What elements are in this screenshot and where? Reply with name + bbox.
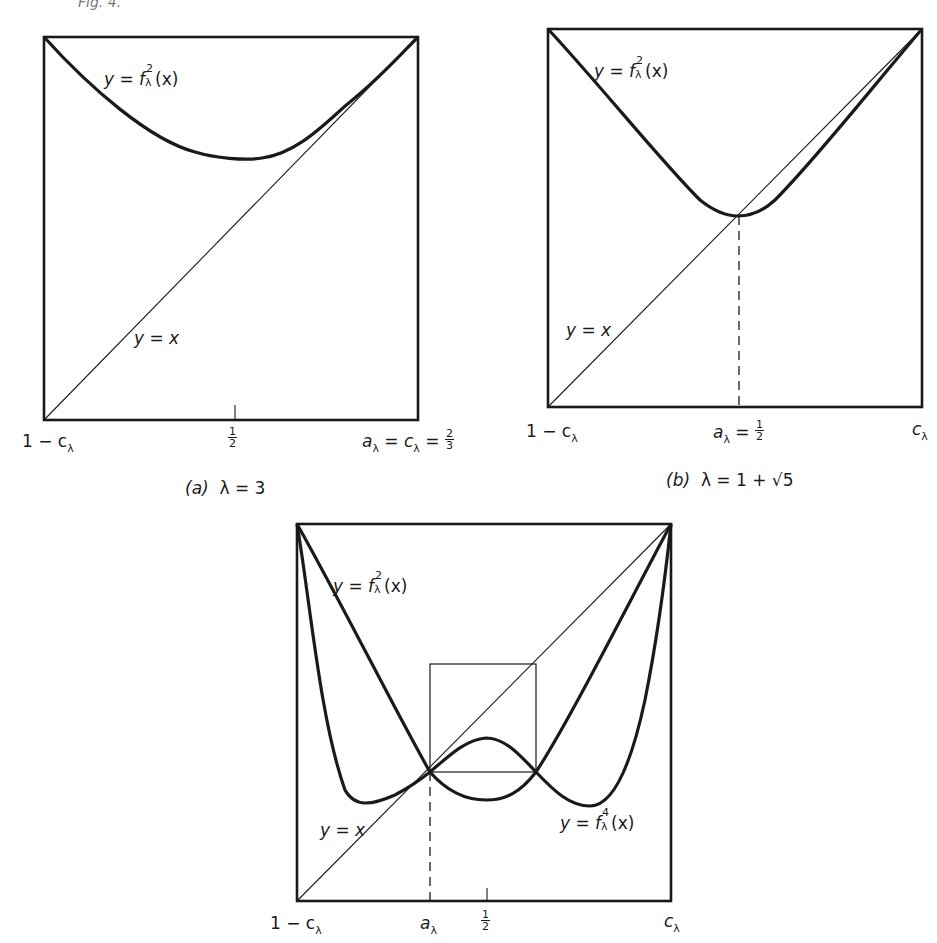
caption-param: λ = 1 + √5	[701, 470, 794, 490]
label-sup: 2	[375, 570, 382, 581]
label-supsub: 2λ	[374, 575, 384, 592]
label-supsub: 2λ	[635, 60, 645, 77]
label-text: (x)	[645, 61, 668, 81]
label-sub: λ	[571, 432, 578, 445]
caption-letter: (b)	[666, 470, 690, 490]
panel-c-f2-curve	[297, 524, 671, 800]
panel-b-f2-label: y = f2λ(x)	[594, 60, 668, 80]
label-text: =	[730, 422, 755, 442]
panel-c-x-right: cλ	[664, 913, 680, 930]
label-sub: λ	[413, 442, 420, 455]
panel-b-diagonal-label: y = x	[566, 322, 611, 339]
label-text: a	[420, 913, 430, 933]
frac-den: 3	[445, 440, 454, 451]
label-text: a	[362, 431, 372, 451]
panel-a-caption: (a) λ = 3	[185, 478, 265, 498]
label-text: 1 − c	[22, 431, 67, 451]
fraction: 12	[755, 419, 764, 442]
panel-c-f4-curve	[297, 524, 671, 806]
label-text: 1 − c	[526, 421, 571, 441]
label-sub: λ	[723, 433, 730, 446]
panel-a-f2-curve	[44, 37, 418, 159]
label-text: y = f	[333, 576, 374, 596]
label-text: y = f	[560, 813, 601, 833]
panel-a	[44, 37, 418, 420]
label-sub: λ	[372, 442, 379, 455]
panel-b	[548, 29, 922, 407]
frac-den: 2	[755, 431, 764, 442]
panel-b-x-mid: aλ = 12	[713, 421, 764, 444]
label-sup: 2	[146, 63, 153, 74]
panel-c-x-a: aλ	[420, 915, 437, 932]
panel-c-x-half: 12	[481, 911, 490, 934]
label-supsub: 2λ	[145, 68, 155, 85]
label-text: = c	[379, 431, 413, 451]
panel-c-f2-label: y = f2λ(x)	[333, 575, 407, 595]
label-text: 1 − c	[270, 913, 315, 933]
frac-den: 2	[228, 438, 237, 449]
label-sub: λ	[145, 77, 152, 88]
figure-canvas	[0, 0, 937, 943]
fraction: 12	[481, 909, 490, 932]
label-sub: λ	[67, 442, 74, 455]
label-text: y = f	[594, 61, 635, 81]
panel-b-diagonal	[548, 29, 922, 407]
panel-a-x-half: 12	[228, 428, 237, 451]
label-sub: λ	[601, 821, 608, 832]
label-sub: λ	[374, 584, 381, 595]
panel-b-caption: (b) λ = 1 + √5	[666, 470, 794, 490]
label-text: c	[664, 911, 673, 931]
panel-b-x-right: cλ	[912, 421, 928, 438]
label-text: c	[912, 419, 921, 439]
label-sup: 2	[636, 55, 643, 66]
label-text: (x)	[384, 576, 407, 596]
label-sub: λ	[315, 924, 322, 937]
label-supsub: 4λ	[601, 812, 611, 829]
fraction: 23	[445, 428, 454, 451]
label-text: =	[420, 431, 445, 451]
panel-c-f4-label: y = f4λ(x)	[560, 812, 634, 832]
panel-a-diagonal-label: y = x	[134, 330, 179, 347]
label-sup: 4	[602, 807, 609, 818]
panel-a-x-right: aλ = cλ = 23	[362, 430, 454, 453]
label-text: (x)	[611, 813, 634, 833]
label-sub: λ	[921, 430, 928, 443]
label-sub: λ	[673, 922, 680, 935]
panel-b-f2-curve	[548, 29, 922, 216]
panel-a-f2-label: y = f2λ(x)	[104, 68, 178, 88]
panel-a-x-left: 1 − cλ	[22, 433, 74, 450]
caption-param: λ = 3	[220, 478, 266, 498]
fraction: 12	[228, 426, 237, 449]
label-text: y = f	[104, 69, 145, 89]
frac-den: 2	[481, 921, 490, 932]
panel-c-diagonal-label: y = x	[320, 822, 365, 839]
label-text: a	[713, 422, 723, 442]
panel-c-x-left: 1 − cλ	[270, 915, 322, 932]
label-text: (x)	[155, 69, 178, 89]
panel-b-x-left: 1 − cλ	[526, 423, 578, 440]
caption-letter: (a)	[185, 478, 209, 498]
label-sub: λ	[430, 924, 437, 937]
label-sub: λ	[635, 69, 642, 80]
